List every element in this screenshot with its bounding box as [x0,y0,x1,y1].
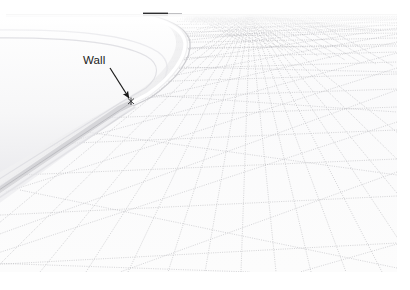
wall-annotation-label: Wall [83,54,105,66]
wall-annotation-marker [128,98,134,106]
three-d-scene: Wall [0,0,397,272]
wall-annotation-arrow [110,68,129,98]
render-viewport: Wall [0,0,397,272]
mesh-figure: Wall [0,0,410,290]
annotation-layer [0,0,397,272]
